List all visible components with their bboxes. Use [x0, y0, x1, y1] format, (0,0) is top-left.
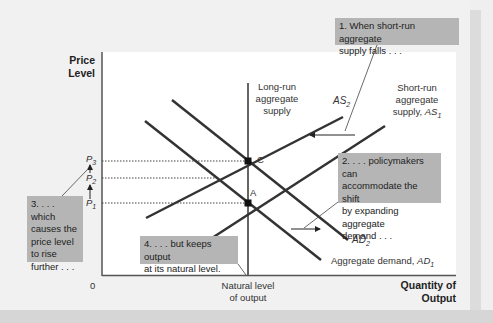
note-3-line1: 3. . . . which	[31, 198, 79, 223]
note-3-line2: causes the	[31, 223, 79, 236]
y-axis-title-line2: Level	[50, 67, 95, 80]
note-3-line5: further . . .	[31, 261, 79, 274]
lras-label-line2: aggregate	[252, 93, 302, 105]
natural-level-line2: of output	[208, 292, 288, 304]
note1-leader	[345, 45, 377, 131]
point-a-label: A	[250, 187, 256, 199]
note-1-line1: 1. When short-run aggregate	[339, 20, 455, 45]
point-c-label: C	[257, 154, 264, 166]
note4-leader	[238, 264, 246, 275]
lras-label-line1: Long-run	[252, 81, 302, 93]
note-2-line1: 2. . . . policymakers can	[342, 155, 437, 180]
lras-label: Long-run aggregate supply	[252, 81, 302, 117]
point-a-marker	[245, 200, 252, 207]
note-3-line3: price level	[31, 236, 79, 249]
ad2-curve	[172, 100, 348, 240]
note-1-line2: supply falls . . .	[339, 45, 455, 58]
note-4-line1: 4. . . . but keeps output	[144, 238, 234, 263]
lras-label-line3: supply	[252, 105, 302, 117]
note2-leader	[304, 202, 338, 228]
natural-level-label: Natural level of output	[208, 280, 288, 304]
x-axis-title-line2: Output	[380, 292, 456, 305]
note-1: 1. When short-run aggregate supply falls…	[335, 18, 459, 45]
note-2: 2. . . . policymakers can accommodate th…	[338, 153, 441, 203]
as1-label-line2: aggregate	[384, 94, 450, 106]
as1-label-line1: Short-run	[384, 82, 450, 94]
y-axis-title: Price Level	[50, 54, 95, 80]
note-2-line2: accommodate the shift	[342, 180, 437, 205]
natural-level-line1: Natural level	[208, 280, 288, 292]
p1-label: P1	[86, 197, 96, 213]
point-c-marker	[245, 158, 252, 165]
note3-leader	[62, 170, 87, 196]
as1-label: Short-run aggregate supply, AS1	[384, 82, 450, 122]
note-4-line2: at its natural level.	[144, 263, 234, 276]
origin-label: 0	[90, 280, 95, 292]
note-2-line3: by expanding aggregate	[342, 205, 437, 230]
as2-label: AS2	[333, 95, 350, 111]
y-axis-title-line1: Price	[50, 54, 95, 67]
note-4: 4. . . . but keeps output at its natural…	[140, 236, 238, 264]
x-axis-title: Quantity of Output	[380, 279, 456, 305]
note-2-line4: demand . . .	[342, 230, 437, 243]
as1-label-line3: supply, AS1	[384, 106, 450, 122]
note-3-line4: to rise	[31, 248, 79, 261]
note-3: 3. . . . which causes the price level to…	[27, 196, 83, 262]
x-axis-title-line1: Quantity of	[380, 279, 456, 292]
ad1-label: Aggregate demand, AD1	[331, 255, 434, 271]
p2-label: P2	[86, 172, 96, 188]
p3-label: P3	[86, 153, 96, 169]
